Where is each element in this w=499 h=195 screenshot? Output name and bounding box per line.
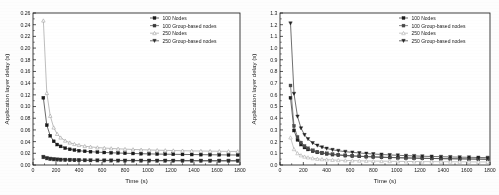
series-marker-0 bbox=[103, 151, 106, 154]
series-marker-1 bbox=[300, 141, 303, 144]
series-marker-0 bbox=[89, 150, 92, 153]
y-tick-label: 0.6 bbox=[270, 92, 277, 98]
series-marker-0 bbox=[49, 134, 52, 137]
series-marker-0 bbox=[236, 154, 239, 157]
y-axis-title: Application layer delay (s) bbox=[250, 54, 257, 125]
series-marker-1 bbox=[351, 154, 354, 157]
series-marker-0 bbox=[148, 152, 151, 155]
series-marker-1 bbox=[303, 144, 306, 147]
series-marker-0 bbox=[218, 153, 221, 156]
series-marker-1 bbox=[325, 152, 328, 155]
series-marker-1 bbox=[311, 149, 314, 152]
y-tick-label: 0.5 bbox=[270, 103, 277, 109]
chart-panel-left: 0.000.020.040.060.080.100.120.140.160.18… bbox=[0, 0, 249, 195]
series-marker-1 bbox=[289, 84, 292, 87]
series-marker-0 bbox=[132, 152, 135, 155]
y-tick-label: 0.8 bbox=[270, 68, 277, 74]
y-tick-label: 0.10 bbox=[20, 103, 30, 109]
series-marker-0 bbox=[110, 151, 113, 154]
y-tick-label: 0.0 bbox=[270, 162, 277, 168]
x-axis-title: Time (s) bbox=[374, 177, 396, 184]
y-tick-label: 1.2 bbox=[270, 22, 277, 28]
y-tick-label: 0.2 bbox=[270, 139, 277, 145]
series-marker-0 bbox=[140, 152, 143, 155]
x-tick-label: 0 bbox=[279, 167, 282, 173]
y-tick-label: 1.0 bbox=[270, 45, 277, 51]
y-tick-label: 0.4 bbox=[270, 115, 277, 121]
y-tick-label: 0.20 bbox=[20, 45, 30, 51]
x-tick-label: 0 bbox=[32, 167, 35, 173]
figure-two-panel-line-charts: 0.000.020.040.060.080.100.120.140.160.18… bbox=[0, 0, 499, 195]
series-marker-0 bbox=[73, 149, 76, 152]
series-marker-1 bbox=[337, 153, 340, 156]
legend-label-1: 100 Group-based nodes bbox=[412, 23, 466, 29]
legend-label-3: 250 Group-based nodes bbox=[163, 38, 217, 44]
x-tick-label: 200 bbox=[52, 167, 61, 173]
x-axis-title: Time (s) bbox=[125, 177, 147, 184]
series-marker-0 bbox=[156, 153, 159, 156]
x-tick-label: 200 bbox=[299, 167, 308, 173]
legend-marker-1 bbox=[153, 24, 156, 27]
series-marker-1 bbox=[316, 150, 319, 153]
legend-label-0: 100 Nodes bbox=[412, 15, 437, 21]
legend-label-2: 250 Nodes bbox=[412, 30, 437, 36]
legend-marker-0 bbox=[402, 17, 405, 20]
series-marker-0 bbox=[209, 153, 212, 156]
series-marker-1 bbox=[331, 153, 334, 156]
series-marker-0 bbox=[52, 140, 55, 143]
x-tick-label: 1200 bbox=[414, 167, 426, 173]
series-marker-1 bbox=[296, 135, 299, 138]
x-tick-label: 1200 bbox=[165, 167, 177, 173]
y-tick-label: 0.12 bbox=[20, 92, 30, 98]
x-tick-label: 1400 bbox=[188, 167, 200, 173]
y-tick-label: 0.3 bbox=[270, 127, 277, 133]
x-tick-label: 400 bbox=[322, 167, 331, 173]
y-tick-label: 0.06 bbox=[20, 127, 30, 133]
y-tick-label: 0.14 bbox=[20, 80, 30, 86]
x-tick-label: 1400 bbox=[438, 167, 450, 173]
right-chart-canvas: 0.00.10.20.30.40.50.60.70.80.91.01.11.21… bbox=[249, 0, 499, 195]
y-tick-label: 0.02 bbox=[20, 150, 30, 156]
legend-marker-0 bbox=[153, 17, 156, 20]
legend-marker-1 bbox=[402, 24, 405, 27]
x-tick-label: 800 bbox=[369, 167, 378, 173]
y-tick-label: 0.16 bbox=[20, 68, 30, 74]
series-marker-0 bbox=[172, 153, 175, 156]
x-tick-label: 1600 bbox=[211, 167, 223, 173]
y-tick-label: 1.1 bbox=[270, 33, 277, 39]
series-marker-0 bbox=[124, 152, 127, 155]
x-tick-label: 600 bbox=[346, 167, 355, 173]
x-tick-label: 1800 bbox=[234, 167, 246, 173]
y-tick-label: 0.04 bbox=[20, 139, 30, 145]
x-tick-label: 400 bbox=[75, 167, 84, 173]
chart-panel-right: 0.00.10.20.30.40.50.60.70.80.91.01.11.21… bbox=[249, 0, 499, 195]
series-marker-0 bbox=[190, 153, 193, 156]
series-marker-0 bbox=[78, 149, 81, 152]
series-marker-0 bbox=[59, 145, 62, 148]
x-tick-label: 600 bbox=[98, 167, 107, 173]
y-axis-title: Application layer delay (s) bbox=[3, 54, 10, 125]
y-tick-label: 0.7 bbox=[270, 80, 277, 86]
y-tick-label: 0.24 bbox=[20, 22, 30, 28]
x-tick-label: 1000 bbox=[391, 167, 403, 173]
series-marker-1 bbox=[307, 147, 310, 150]
series-marker-1 bbox=[344, 154, 347, 157]
legend-label-3: 250 Group-based nodes bbox=[412, 38, 466, 44]
series-marker-0 bbox=[181, 153, 184, 156]
left-chart-canvas: 0.000.020.040.060.080.100.120.140.160.18… bbox=[0, 0, 249, 195]
x-tick-label: 1600 bbox=[461, 167, 473, 173]
series-marker-0 bbox=[83, 150, 86, 153]
series-marker-0 bbox=[68, 148, 71, 151]
y-tick-label: 0.9 bbox=[270, 57, 277, 63]
y-tick-label: 0.18 bbox=[20, 57, 30, 63]
x-tick-label: 800 bbox=[121, 167, 130, 173]
series-marker-0 bbox=[96, 151, 99, 154]
y-tick-label: 1.3 bbox=[270, 10, 277, 16]
series-marker-1 bbox=[293, 124, 296, 127]
series-marker-0 bbox=[42, 96, 45, 99]
y-tick-label: 0.1 bbox=[270, 150, 277, 156]
legend-label-2: 250 Nodes bbox=[163, 30, 188, 36]
series-marker-1 bbox=[321, 151, 324, 154]
y-tick-label: 0.22 bbox=[20, 33, 30, 39]
series-marker-0 bbox=[164, 153, 167, 156]
